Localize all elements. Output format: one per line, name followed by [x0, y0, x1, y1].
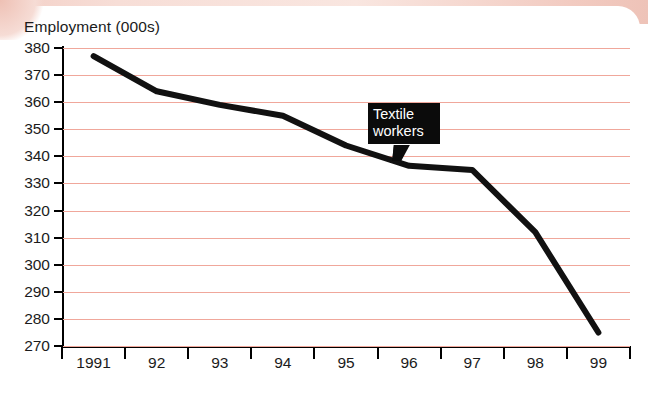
annotation-callout-pointer: [392, 145, 410, 161]
annotation-line-1: Textile: [373, 106, 435, 123]
annotation-line-2: workers: [373, 123, 435, 140]
annotation-callout-textile-workers: Textile workers: [368, 103, 440, 144]
series-line-textile-workers: [0, 0, 648, 397]
chart-page: Employment (000s) 3803703603503403303203…: [0, 0, 648, 397]
